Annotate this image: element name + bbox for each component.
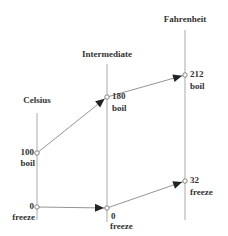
point-value: 0 [111, 211, 116, 221]
point-tag: freeze [110, 221, 133, 231]
point-marker-icon [105, 95, 109, 99]
point-value: 100 [21, 147, 35, 157]
arrowhead-icon [172, 74, 182, 82]
arrowhead-icon [95, 204, 104, 212]
point-value: 32 [190, 175, 200, 185]
point-tag: freeze [190, 187, 213, 197]
point-marker-icon [105, 206, 109, 210]
temperature-conversion-diagram: Celsius100boil0freezeIntermediate180boil… [0, 0, 228, 236]
arrowhead-icon [172, 181, 182, 189]
arrow-line [37, 97, 107, 153]
point-marker-icon [35, 151, 39, 155]
point-marker-icon [183, 179, 187, 183]
point-marker-icon [35, 205, 39, 209]
axis-title-celsius: Celsius [23, 95, 51, 105]
axis-title-fahrenheit: Fahrenheit [164, 14, 206, 24]
arrowhead-icon [95, 99, 105, 108]
point-value: 212 [190, 69, 204, 79]
point-tag: boil [112, 103, 127, 113]
arrow-line [107, 181, 185, 208]
point-value: 0 [30, 201, 35, 211]
point-tag: boil [20, 158, 35, 168]
point-marker-icon [183, 73, 187, 77]
point-tag: boil [190, 81, 205, 91]
point-tag: freeze [12, 212, 35, 222]
point-value: 180 [112, 91, 126, 101]
axis-title-intermediate: Intermediate [82, 49, 132, 59]
